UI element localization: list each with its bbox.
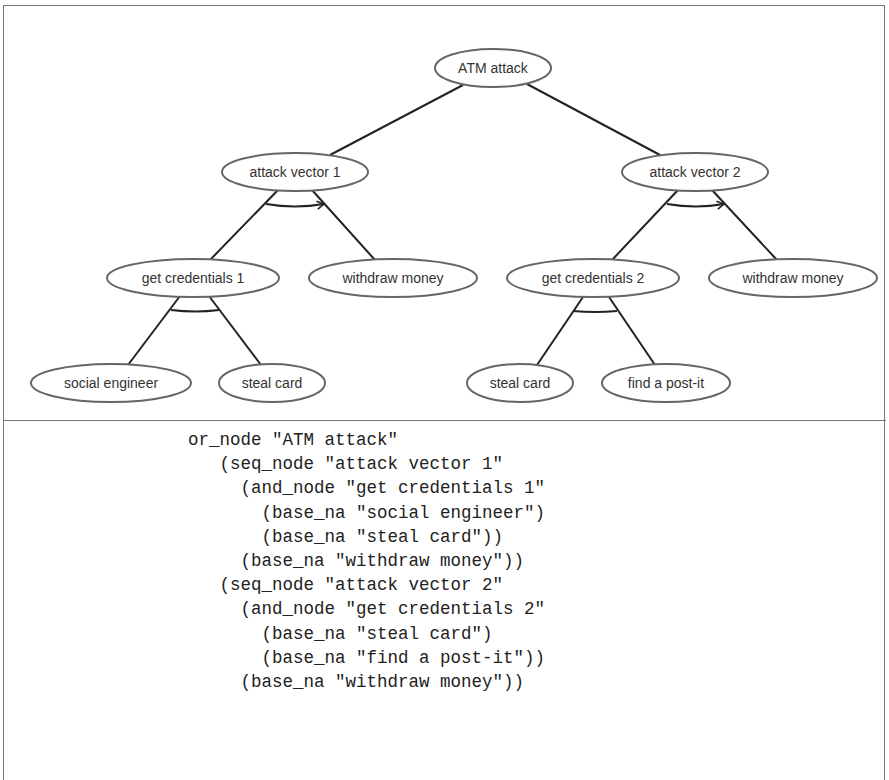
sequence-arrow-icon	[667, 204, 724, 207]
tree-node-sc1: steal card	[219, 364, 325, 402]
node-label: attack vector 2	[649, 164, 740, 180]
tree-node-sc2: steal card	[467, 364, 573, 402]
edge-av2-gc2	[612, 190, 678, 260]
code-listing: or_node "ATM attack" (seq_node "attack v…	[188, 428, 545, 694]
code-line: (seq_node "attack vector 2"	[188, 573, 545, 597]
tree-node-gc1: get credentials 1	[107, 259, 279, 297]
tree-node-root: ATM attack	[435, 49, 551, 87]
attack-tree-diagram: ATM attackattack vector 1attack vector 2…	[0, 0, 889, 420]
tree-node-gc2: get credentials 2	[507, 259, 679, 297]
tree-node-se: social engineer	[31, 364, 191, 402]
tree-node-fp: find a post-it	[602, 364, 730, 402]
code-line: (base_na "social engineer")	[188, 501, 545, 525]
node-label: get credentials 1	[142, 270, 245, 286]
node-label: attack vector 1	[249, 164, 340, 180]
edge-root-av1	[330, 85, 463, 155]
node-label: get credentials 2	[542, 270, 645, 286]
edge-gc2-sc2	[537, 297, 583, 365]
code-line: (seq_node "attack vector 1"	[188, 452, 545, 476]
tree-node-wm2: withdraw money	[709, 259, 877, 297]
node-label: steal card	[490, 375, 551, 391]
tree-node-av1: attack vector 1	[222, 153, 368, 191]
edge-gc2-fp	[609, 297, 655, 365]
edge-gc1-sc1	[209, 296, 261, 365]
edge-root-av2	[527, 84, 660, 155]
tree-nodes: ATM attackattack vector 1attack vector 2…	[31, 49, 877, 402]
and-arc-icon	[171, 310, 219, 312]
edge-gc1-se	[128, 296, 180, 365]
code-line: (base_na "steal card")	[188, 622, 545, 646]
sequence-arrow-icon	[266, 204, 324, 207]
code-line: (base_na "steal card"))	[188, 525, 545, 549]
tree-node-wm1: withdraw money	[309, 259, 477, 297]
node-label: social engineer	[64, 375, 159, 391]
code-line: (base_na "withdraw money"))	[188, 670, 545, 694]
node-label: find a post-it	[628, 375, 704, 391]
code-line: (base_na "find a post-it"))	[188, 646, 545, 670]
code-line: (and_node "get credentials 1"	[188, 476, 545, 500]
node-label: withdraw money	[341, 270, 443, 286]
code-line: or_node "ATM attack"	[188, 428, 545, 452]
edge-av2-wm2	[712, 190, 777, 260]
tree-connectors	[171, 204, 724, 312]
and-arc-icon	[573, 311, 617, 312]
tree-edges	[128, 84, 777, 365]
edge-av1-wm1	[312, 190, 375, 260]
node-label: ATM attack	[458, 60, 529, 76]
code-line: (base_na "withdraw money"))	[188, 549, 545, 573]
code-line: (and_node "get credentials 2"	[188, 597, 545, 621]
node-label: steal card	[242, 375, 303, 391]
edge-av1-gc1	[210, 190, 278, 260]
node-label: withdraw money	[741, 270, 843, 286]
section-divider	[3, 420, 886, 421]
tree-node-av2: attack vector 2	[622, 153, 768, 191]
